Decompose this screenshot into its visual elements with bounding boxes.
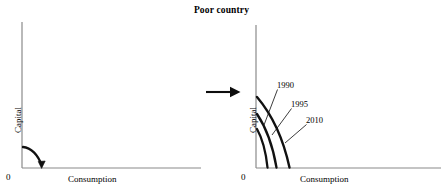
left-origin-label: 0 (6, 172, 11, 183)
left-y-axis-label: Capital (13, 107, 24, 133)
figure-canvas (0, 0, 443, 193)
figure-root: Poor country (0, 0, 443, 193)
right-arc-1990 (257, 129, 268, 168)
curve-label-1990: 1990 (277, 80, 294, 90)
right-y-axis-label: Capital (248, 107, 259, 133)
curve-label-1995: 1995 (291, 99, 308, 109)
leader-line-1995 (272, 109, 292, 136)
right-origin-label: 0 (241, 172, 246, 183)
transition-arrow-icon (206, 87, 241, 97)
right-panel (256, 25, 441, 168)
left-x-axis-label: Consumption (68, 174, 117, 185)
curve-label-2010: 2010 (306, 115, 323, 125)
right-x-axis-label: Consumption (300, 174, 349, 185)
left-transition-arrowhead (38, 161, 45, 168)
left-panel (22, 22, 201, 168)
leader-line-2010 (285, 125, 307, 144)
